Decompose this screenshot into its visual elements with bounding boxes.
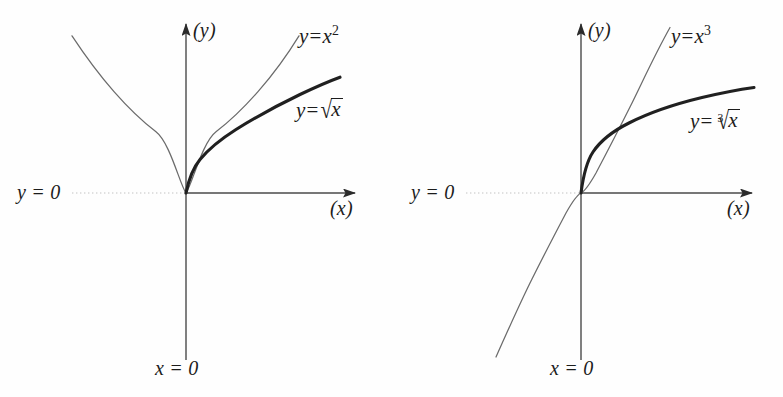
right-cbrt-var: y <box>690 109 700 133</box>
left-parabola-equals: = <box>309 24 323 48</box>
right-x-zero-label: x = 0 <box>550 358 593 378</box>
left-parabola-exponent: 2 <box>332 23 339 38</box>
left-sqrt-radical: √x <box>320 99 343 121</box>
left-curve-label-parabola: y=x2 <box>299 24 339 47</box>
right-y-zero-label: y = 0 <box>411 182 454 202</box>
right-curve-label-cube-root: y=3√x <box>690 110 740 132</box>
left-curve-label-square-root: y=√x <box>296 99 343 121</box>
curve-cubic <box>496 28 670 358</box>
right-cubic-base: x <box>695 24 705 48</box>
curve-cube-root <box>581 88 754 194</box>
left-sqrt-equals: = <box>306 98 320 122</box>
left-panel-axes <box>72 24 355 360</box>
left-parabola-var: y <box>299 24 309 48</box>
left-sqrt-var: y <box>296 98 306 122</box>
right-curve-label-cubic: y=x3 <box>671 24 711 47</box>
right-cbrt-equals: = <box>700 109 714 133</box>
left-y-axis-label: (y) <box>193 20 216 40</box>
left-x-axis-label: (x) <box>330 198 353 218</box>
figure-canvas <box>0 0 783 397</box>
left-sqrt-radicand: x <box>331 98 343 120</box>
right-panel-curves <box>496 28 754 358</box>
figure-root: y=x2 y=√x (y) (x) y = 0 x = 0 y=x3 y=3√x… <box>0 0 783 397</box>
right-x-axis-label: (x) <box>727 198 750 218</box>
right-cbrt-radical: 3√x <box>714 110 740 132</box>
curve-square-root <box>186 77 340 193</box>
right-cubic-exponent: 3 <box>704 23 711 38</box>
right-y-axis-label: (y) <box>588 20 611 40</box>
left-y-zero-label: y = 0 <box>17 182 60 202</box>
left-x-zero-label: x = 0 <box>155 358 198 378</box>
right-cubic-var: y <box>671 24 681 48</box>
left-parabola-base: x <box>323 24 333 48</box>
right-panel-axes <box>466 24 752 360</box>
right-cbrt-radicand: x <box>728 109 740 131</box>
right-cubic-equals: = <box>681 24 695 48</box>
